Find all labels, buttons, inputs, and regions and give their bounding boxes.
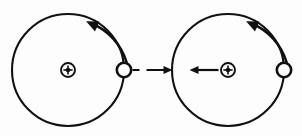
displacement-arrow: [133, 66, 173, 74]
wheel-right: [172, 14, 291, 126]
wheel-left-axle-marker: [61, 63, 75, 77]
axle-center-dot: [226, 68, 231, 73]
velocity-vector-arrowhead: [190, 66, 199, 74]
wheel-right-axle-marker: [221, 63, 235, 77]
wheel-left-rim-ball: [117, 63, 131, 77]
axle-center-dot: [66, 68, 71, 73]
wheel-right-rim-ball: [277, 63, 291, 77]
wheel-left-rotation-arc: [86, 21, 127, 62]
wheel-left: [12, 14, 131, 126]
wheel-rotation-diagram: [0, 0, 302, 136]
wheel-right-rotation-arc: [246, 21, 287, 62]
wheel-right-velocity-vector: [190, 66, 219, 74]
diagram-canvas: [0, 0, 302, 136]
